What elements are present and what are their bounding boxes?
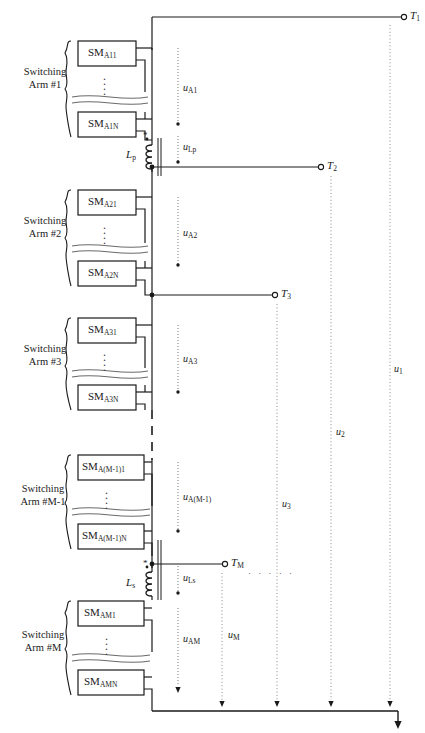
armM-label: Switching Arm #M xyxy=(4,629,82,654)
terminal-label-t3: T3 xyxy=(281,287,291,301)
sm-label-am11: SMA(M-1)1 xyxy=(82,460,125,474)
sm-label-a3n: SMA3N xyxy=(88,390,119,404)
t3-terminal-circle[interactable] xyxy=(272,292,277,297)
terminal-voltage-lines xyxy=(219,17,403,707)
ls-coil xyxy=(146,572,152,596)
sm-a3n-lead-bottom xyxy=(136,404,145,410)
arm1-vertical-dots: .... xyxy=(103,74,106,94)
arm2-break-wave-lower xyxy=(72,251,148,254)
armM-voltage-arrowhead xyxy=(175,687,180,693)
lp-voltage-label: uLp xyxy=(183,141,196,154)
tm-horizontal-dots: · · · · · xyxy=(248,568,295,578)
sm-label-am1n: SMA(M-1)N xyxy=(82,529,127,543)
sm-label-a1n: SMA1N xyxy=(88,117,119,131)
terminal-t3-group xyxy=(150,292,278,297)
u2-label: u2 xyxy=(336,426,345,439)
arm2-vertical-dots: .... xyxy=(103,223,106,243)
arm3-voltage-arrowhead xyxy=(176,390,179,393)
sm-amm1-lead-bottom xyxy=(144,620,152,652)
armM1-break-wave-lower xyxy=(72,514,150,517)
arm3-break-wave-lower xyxy=(72,376,148,379)
arm3-vertical-dots: .... xyxy=(103,350,106,370)
armM1-break-wave-upper xyxy=(72,508,150,511)
inductor-ls-group xyxy=(146,540,180,600)
arm3-label: Switching Arm #3 xyxy=(6,343,84,368)
armM-group xyxy=(65,601,181,711)
terminal-label-t2: T2 xyxy=(327,159,337,173)
arm2-label: Switching Arm #2 xyxy=(6,215,84,240)
armM-break-wave-upper xyxy=(72,654,150,657)
ls-polarity-asterisk: * xyxy=(143,558,148,568)
sm-am11-lead-bottom xyxy=(144,474,152,506)
lp-polarity-asterisk: * xyxy=(143,130,148,140)
sm-a31-lead-bottom xyxy=(136,337,145,368)
inductor-ls-label: Ls xyxy=(126,576,135,590)
um-label: uM xyxy=(228,629,240,642)
sm-ammn-lead-bottom xyxy=(144,689,152,711)
sm-a11-lead-bottom xyxy=(136,60,145,92)
ls-voltage-arrowhead xyxy=(176,591,179,594)
terminal-label-t1: T1 xyxy=(410,9,420,23)
armM-voltage-label: uAM xyxy=(183,633,200,646)
u3-label: u3 xyxy=(282,498,291,511)
arm1-voltage-label: uA1 xyxy=(183,82,197,95)
lp-voltage-arrowhead xyxy=(176,160,179,163)
sm-label-a31: SMA31 xyxy=(88,323,117,337)
sm-label-a11: SMA11 xyxy=(88,46,117,60)
terminal-t2-group xyxy=(150,164,324,169)
arm1-voltage-arrowhead xyxy=(176,122,179,125)
tm-terminal-circle[interactable] xyxy=(222,561,227,566)
u1-label: u1 xyxy=(394,363,403,376)
arm2-voltage-arrowhead xyxy=(176,263,179,266)
arm1-break-wave-upper xyxy=(72,96,148,99)
u1-bottom-arrowhead xyxy=(394,721,401,729)
sm-a21-lead-bottom xyxy=(136,209,145,243)
inductor-lp-group xyxy=(146,136,180,176)
sm-label-ammn: SMAMN xyxy=(84,675,117,689)
sm-a2n-lead-bottom xyxy=(136,280,152,295)
armM-vertical-dots: .... xyxy=(105,634,108,654)
armM1-voltage-label: uA(M-1) xyxy=(183,491,211,504)
um-arrowhead xyxy=(219,701,224,707)
arm3-break-wave-upper xyxy=(72,370,148,373)
arm1-break-wave-lower xyxy=(72,102,148,105)
arm3-voltage-label: uA3 xyxy=(183,353,197,366)
u1-arrowhead xyxy=(387,701,392,707)
sm-label-a2n: SMA2N xyxy=(88,266,119,280)
terminal-label-tm: TM xyxy=(231,556,244,570)
u2-arrowhead xyxy=(328,701,333,707)
armM-break-wave-lower xyxy=(72,660,150,663)
ls-voltage-label: uLs xyxy=(183,572,196,585)
armM1-vertical-dots: .... xyxy=(105,488,108,508)
sm-label-a21: SMA21 xyxy=(88,195,117,209)
t1-terminal-circle[interactable] xyxy=(401,14,406,19)
u3-arrowhead xyxy=(274,701,279,707)
armM1-label: Switching Arm #M-1 xyxy=(4,483,82,508)
arm2-break-wave-upper xyxy=(72,245,148,248)
t2-terminal-circle[interactable] xyxy=(318,164,323,169)
sm-am1n-lead-bottom xyxy=(144,543,152,556)
arm2-voltage-label: uA2 xyxy=(183,227,197,240)
sm-label-amm1: SMAM1 xyxy=(84,606,116,620)
inductor-lp-label: Lp xyxy=(126,148,136,162)
armM1-voltage-arrowhead xyxy=(176,529,179,532)
arm1-label: Switching Arm #1 xyxy=(6,66,84,91)
